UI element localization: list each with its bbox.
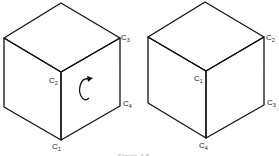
right-cube-right-face — [206, 37, 264, 138]
right-label-c2: C2 — [266, 33, 275, 43]
left-label-c1: C1 — [52, 142, 61, 152]
arrowhead-icon — [87, 76, 93, 82]
cube-rotation-diagram: C3 C2 C4 C1 C2 C1 C3 C4 Figure 4.6 — [0, 0, 279, 156]
right-cube-left-face — [148, 37, 206, 138]
left-label-c3: C3 — [121, 33, 130, 43]
right-label-c3: C3 — [267, 98, 276, 108]
left-label-c4: C4 — [123, 99, 132, 109]
right-cube-top-face — [148, 2, 264, 71]
figure-caption: Figure 4.6 — [118, 153, 150, 156]
left-cube-top-face — [4, 3, 120, 72]
left-cube-left-face — [4, 38, 61, 140]
right-cube — [148, 2, 264, 138]
right-label-c1: C1 — [194, 74, 203, 84]
left-cube-right-face — [61, 38, 120, 140]
left-label-c2: C2 — [49, 76, 58, 86]
right-label-c4: C4 — [199, 141, 208, 151]
rotation-arrow-icon — [80, 79, 89, 100]
left-cube — [4, 3, 120, 140]
